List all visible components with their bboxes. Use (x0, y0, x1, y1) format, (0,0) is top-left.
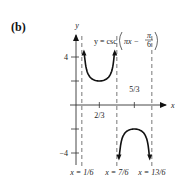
curve-branch-down (119, 129, 150, 155)
equation-frac-den: 6 (147, 40, 151, 49)
csc-graph: x = 1/6x = 7/6x = 13/6xy4−42/35/3y = csc… (0, 0, 182, 187)
x-axis-label: x (170, 101, 175, 110)
x-tick-label-0: 2/3 (94, 111, 104, 120)
asymptote-label-0: x = 1/6 (69, 168, 93, 177)
equation-paren-right (155, 32, 158, 50)
curve-branch-up (84, 55, 115, 81)
asymptote-label-1: x = 7/6 (104, 168, 128, 177)
equation-frac-num: π (147, 31, 152, 40)
asymptote-label-2: x = 13/6 (137, 168, 165, 177)
y-axis-label: y (74, 21, 79, 30)
equation-paren-left (120, 32, 123, 50)
x-tick-label-1: 5/3 (129, 85, 139, 94)
y-tick-label-3: −4 (59, 149, 68, 158)
equation-pi-x: πx − (124, 37, 139, 46)
y-tick-label-0: 4 (64, 53, 68, 62)
equation-lhs: y = csc (94, 37, 117, 46)
